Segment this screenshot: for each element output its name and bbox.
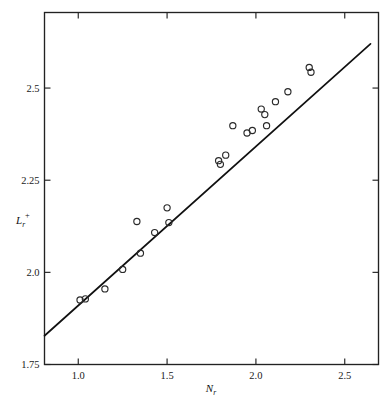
right-axis-ticks	[373, 88, 379, 364]
top-axis-ticks	[78, 13, 344, 19]
y-axis-ticks	[45, 88, 51, 364]
data-point	[152, 229, 158, 235]
data-point	[262, 112, 268, 118]
y-axis-title-base: L	[15, 214, 22, 226]
scatter-plot-figure: 1.01.52.02.5 1.752.02.252.5 Nr Lr+	[0, 0, 391, 402]
data-point	[223, 152, 229, 158]
y-tick-label: 1.75	[21, 359, 39, 370]
x-axis-title: Nr	[205, 382, 216, 397]
data-point	[216, 158, 222, 164]
data-point-markers	[77, 64, 314, 303]
x-tick-labels: 1.01.52.02.5	[72, 370, 352, 381]
y-axis-title-sub: r	[22, 220, 25, 229]
data-point	[249, 127, 255, 133]
y-tick-label: 2.5	[26, 83, 39, 94]
x-tick-label: 1.5	[161, 370, 174, 381]
y-tick-label: 2.0	[26, 267, 39, 278]
x-tick-label: 2.5	[338, 370, 351, 381]
data-point	[285, 89, 291, 95]
data-point	[272, 99, 278, 105]
data-point	[137, 250, 143, 256]
fit-line-group	[45, 44, 371, 336]
y-axis-title-text: Lr+	[15, 211, 30, 229]
data-point	[230, 123, 236, 129]
x-axis-ticks	[78, 359, 344, 365]
fit-line	[45, 44, 371, 336]
x-axis-title-text: Nr	[205, 382, 216, 397]
plot-canvas: 1.01.52.02.5 1.752.02.252.5 Nr Lr+	[0, 0, 391, 402]
data-point	[120, 266, 126, 272]
plot-frame	[45, 13, 379, 365]
data-point	[263, 123, 269, 129]
y-tick-label: 2.25	[21, 175, 39, 186]
data-point	[134, 218, 140, 224]
data-point	[102, 286, 108, 292]
x-tick-label: 2.0	[249, 370, 262, 381]
data-point	[217, 161, 223, 167]
frame-rect	[45, 13, 379, 365]
x-axis-title-sub: r	[213, 388, 216, 397]
y-axis-title-sup: +	[25, 211, 30, 220]
x-tick-label: 1.0	[72, 370, 85, 381]
y-axis-title: Lr+	[15, 211, 30, 229]
data-point	[164, 205, 170, 211]
